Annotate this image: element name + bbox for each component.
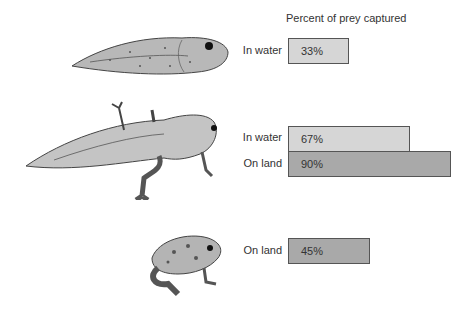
adult-frog-icon	[138, 224, 228, 302]
bar-value: 90%	[301, 158, 323, 170]
bar-label: On land	[232, 244, 282, 256]
bar-value: 67%	[301, 133, 323, 145]
bar-label: In water	[232, 44, 282, 56]
bar-label: In water	[232, 131, 282, 143]
chart-title: Percent of prey captured	[286, 12, 406, 24]
bar-label: On land	[232, 157, 282, 169]
bar-tadpole-in-water: 33%	[288, 38, 349, 64]
tadpole-icon	[70, 28, 230, 80]
bar-froglet-in-water: 67%	[288, 126, 410, 152]
bar-froglet-on-land: 90%	[288, 151, 451, 177]
bar-value: 33%	[301, 45, 323, 57]
bar-value: 45%	[301, 245, 323, 257]
froglet-icon	[24, 100, 234, 200]
bar-adult-on-land: 45%	[288, 238, 370, 264]
